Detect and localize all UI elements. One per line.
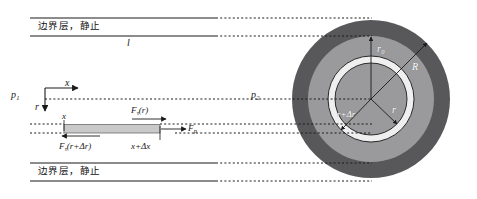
pressure-outlet-label: p2: [251, 90, 259, 100]
figure-canvas: 边界层，静止 边界层，静止 l p1 p2 x r x x+Δx Fτ(r) F…: [0, 0, 477, 199]
radius-r0-subscript: 0: [381, 48, 384, 55]
force-tau-r-label: Fτ(r): [131, 106, 148, 115]
pressure-outlet-subscript: 2: [256, 94, 259, 101]
pressure-inlet-subscript: 1: [16, 94, 19, 101]
boundary-layer-top-label: 边界层，静止: [38, 21, 100, 31]
pipe-length-label: l: [127, 38, 130, 48]
radius-r-label: r: [392, 105, 396, 115]
axis-r-label: r: [35, 102, 39, 112]
force-p-symbol: F: [188, 123, 194, 133]
radius-r-dr-label: r+Δr: [337, 110, 355, 119]
fluid-element-body: [64, 125, 160, 134]
force-tau-r-dr-symbol: F: [59, 141, 65, 151]
radius-R-label: R: [412, 62, 418, 72]
force-tau-r-dr-subscript: τ: [65, 145, 67, 152]
force-tau-r-symbol: F: [131, 105, 137, 115]
element-x-label: x: [62, 112, 66, 121]
element-x-dx-label: x+Δx: [131, 142, 150, 151]
force-tau-r-dr-label: Fτ(r+Δr): [59, 142, 91, 151]
boundary-layer-bottom-label: 边界层，静止: [38, 166, 100, 176]
force-p-label: Fp: [188, 124, 197, 133]
axis-x-label: x: [65, 78, 69, 88]
force-tau-r-argument: (r): [139, 105, 149, 115]
pressure-inlet-label: p1: [11, 90, 19, 100]
force-tau-r-dr-argument: (r+Δr): [67, 141, 91, 151]
radius-r0-label: r0: [377, 44, 384, 54]
fluid-element: [64, 125, 160, 134]
force-p-subscript: p: [194, 127, 197, 134]
force-tau-r-subscript: τ: [137, 109, 139, 116]
